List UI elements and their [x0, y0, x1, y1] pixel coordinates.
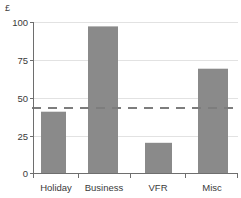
y-tick-label-75: 75: [17, 55, 28, 66]
x-tick-label-vfr: VFR: [149, 182, 168, 193]
bars-group: [41, 26, 228, 173]
chart-canvas: £ 100: [0, 0, 241, 198]
bar-holiday[interactable]: [41, 112, 66, 173]
y-tick-labels: 100 75 50 25 0: [12, 17, 28, 179]
y-tick-label-50: 50: [17, 93, 28, 104]
bar-business[interactable]: [88, 26, 118, 173]
bar-vfr[interactable]: [145, 143, 172, 173]
y-tick-label-100: 100: [12, 17, 28, 28]
x-tick-label-holiday: Holiday: [40, 182, 72, 193]
x-tick-label-business: Business: [85, 182, 124, 193]
x-tick-label-misc: Misc: [202, 182, 222, 193]
y-tick-label-0: 0: [23, 168, 28, 179]
bar-misc[interactable]: [198, 69, 228, 173]
bar-chart: £ 100: [0, 0, 241, 198]
x-tick-labels: Holiday Business VFR Misc: [40, 182, 222, 193]
y-axis-unit-label: £: [5, 3, 10, 13]
y-tick-label-25: 25: [17, 131, 28, 142]
